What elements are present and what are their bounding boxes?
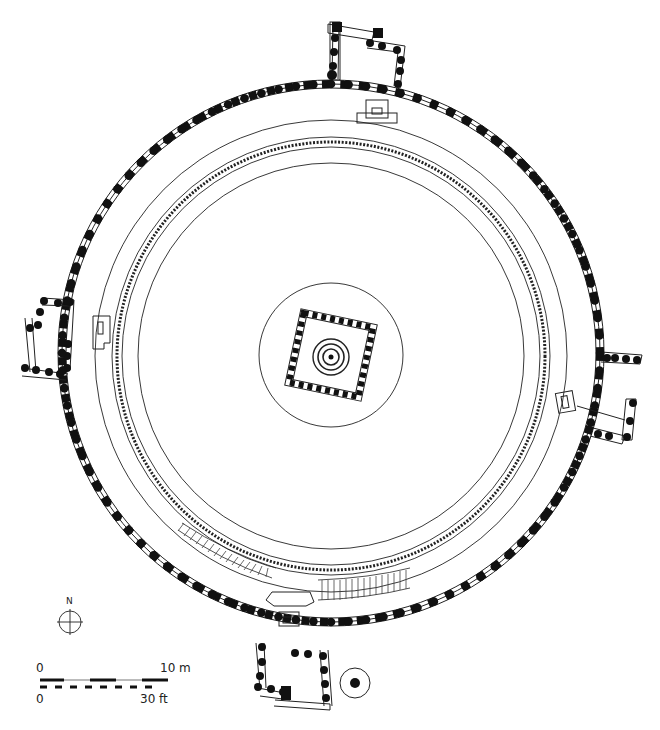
shrine-east: [555, 391, 575, 414]
gate-south: [254, 643, 332, 710]
scale-bar: [40, 680, 168, 687]
north-arrow-icon: [57, 609, 83, 635]
stairs-southwest: [178, 523, 276, 578]
gate-north: [327, 22, 405, 88]
scale-imperial-end: 30 ft: [140, 692, 168, 706]
small-stupa: [340, 668, 370, 698]
site-plan: [0, 0, 660, 730]
scale-metric-start: 0: [36, 661, 44, 675]
scale-metric-end: 10 m: [160, 661, 191, 675]
shrine-north: [357, 100, 397, 123]
compass-label: N: [66, 596, 73, 606]
central-stupa: [313, 339, 349, 375]
scale-imperial-start: 0: [36, 692, 44, 706]
outer-wall-pillars: [58, 80, 605, 627]
